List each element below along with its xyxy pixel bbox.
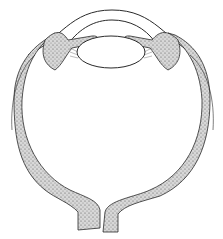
eye-diagram	[0, 0, 223, 239]
lens	[77, 36, 145, 68]
